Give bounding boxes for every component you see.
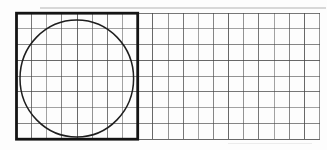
grid-figure bbox=[0, 0, 327, 150]
figure-svg bbox=[0, 0, 327, 150]
